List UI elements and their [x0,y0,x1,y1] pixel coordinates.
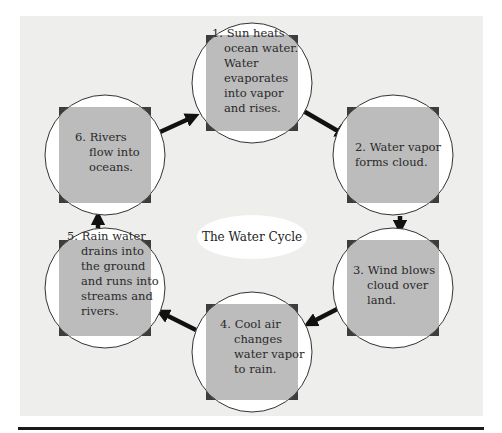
arrow-step-6-to-1 [160,117,193,132]
cycle-step-3: 3. Wind blowscloud overland. [333,228,453,348]
step-text-line: evaporates [224,71,288,85]
cycle-step-2: 2. Water vaporforms cloud. [333,95,453,215]
step-text-line: flow into [89,145,140,159]
center-label-group: The Water Cycle [197,215,307,259]
diagram-title: The Water Cycle [202,230,302,244]
step-text-line: and runs into [81,274,159,288]
step-text-line: 5. Rain water [67,229,146,243]
step-text-line: 4. Cool air [220,317,281,331]
cycle-step-6: 6. Riversflow intooceans. [45,95,165,215]
step-text-line: the ground [81,259,146,273]
step-text-line: into vapor [224,86,284,100]
step-text-line: changes [234,332,282,346]
cycle-step-5: 5. Rain waterdrains intothe groundand ru… [45,228,165,348]
step-text-line: forms cloud. [355,155,428,169]
step-text-line: land. [367,293,396,307]
arrow-step-1-to-2 [300,109,343,134]
cycle-step-4: 4. Cool airchangeswater vaporto rain. [192,292,312,412]
step-text-line: streams and [81,289,153,303]
step-text-line: cloud over [367,278,429,292]
arrow-step-4-to-5 [162,313,196,330]
step-text-line: drains into [81,244,144,258]
step-text-line: and rises. [224,101,281,115]
step-text-line: water vapor [234,347,305,361]
step-text-line: oceans. [89,160,133,174]
step-text-line: rivers. [81,304,119,318]
step-text-line: 1. Sun heats [212,26,285,40]
step-text-line: ocean water. [224,41,298,55]
water-cycle-diagram: 1. Sun heatsocean water.Waterevaporatesi… [0,0,502,433]
cycle-step-1: 1. Sun heatsocean water.Waterevaporatesi… [192,23,312,143]
step-text-line: Water [224,56,259,70]
step-text-line: 2. Water vapor [355,140,442,154]
step-text-line: 3. Wind blows [353,263,435,277]
step-text-line: to rain. [234,362,276,376]
step-text-line: 6. Rivers [75,130,127,144]
